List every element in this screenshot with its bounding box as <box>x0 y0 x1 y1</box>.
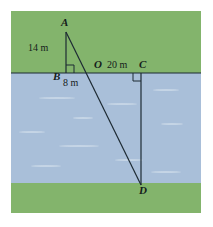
diagram-scene: A B O C D 14 m 8 m 20 m <box>11 11 201 213</box>
measure-label-ab: 14 m <box>28 43 48 53</box>
diagram-figure: A B O C D 14 m 8 m 20 m <box>0 0 213 227</box>
segment-aod <box>66 32 141 185</box>
right-angle-c <box>133 73 141 81</box>
measure-label-bo: 8 m <box>63 78 78 88</box>
point-label-d: D <box>139 185 147 196</box>
point-label-o: O <box>94 59 102 70</box>
point-label-c: C <box>139 59 146 70</box>
point-label-a: A <box>61 17 68 28</box>
measure-label-oc: 20 m <box>107 60 127 70</box>
point-label-b: B <box>53 71 60 82</box>
right-angle-b <box>66 65 74 73</box>
